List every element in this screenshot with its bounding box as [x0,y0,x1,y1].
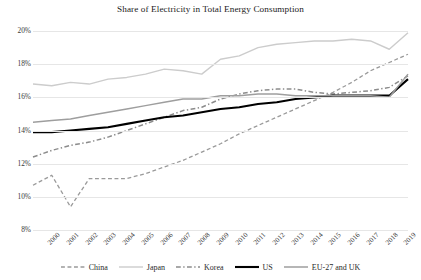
x-axis-tick-label: 2019 [402,231,418,247]
series-line-us [33,79,408,132]
legend-label-us: US [263,263,273,272]
legend-item-korea[interactable]: Korea [176,262,224,272]
x-axis-tick-label: 2000 [46,231,62,247]
x-axis-tick-label: 2014 [309,231,325,247]
x-axis-tick-label: 2015 [327,231,343,247]
x-axis-tick-label: 2016 [346,231,362,247]
legend-item-eu-27-and-uk[interactable]: EU-27 and UK [284,262,360,272]
x-axis-tick-label: 2017 [365,231,381,247]
legend-swatch-us [235,262,259,272]
series-line-japan [33,33,408,86]
x-axis-tick-label: 2001 [65,231,81,247]
legend-swatch-china [61,262,85,272]
legend-item-us[interactable]: US [235,262,273,272]
x-axis-tick-label: 2008 [196,231,212,247]
legend-swatch-japan [119,262,143,272]
gridline [33,97,408,98]
legend-swatch-eu-27-and-uk [284,262,308,272]
gridline [33,64,408,65]
x-axis-tick-label: 2005 [140,231,156,247]
y-axis-tick-label: 10% [3,193,31,200]
y-axis-tick-label: 16% [3,93,31,100]
y-axis-tick-label: 14% [3,127,31,134]
x-axis-tick-label: 2012 [271,231,287,247]
gridline [33,164,408,165]
chart-title: Share of Electricity in Total Energy Con… [0,4,421,14]
legend-label-korea: Korea [204,263,224,272]
legend-label-japan: Japan [147,263,165,272]
chart-legend: ChinaJapanKoreaUSEU-27 and UK [0,258,421,276]
x-axis-tick-label: 2002 [84,231,100,247]
legend-label-eu-27-and-uk: EU-27 and UK [312,263,360,272]
gridline [33,131,408,132]
x-axis-tick-label: 2013 [290,231,306,247]
x-axis-tick-label: 2009 [215,231,231,247]
plot-area [33,31,408,230]
x-axis-tick-label: 2004 [121,231,137,247]
legend-item-japan[interactable]: Japan [119,262,165,272]
x-axis-tick-label: 2011 [252,231,267,246]
legend-swatch-korea [176,262,200,272]
legend-label-china: China [89,263,108,272]
x-axis-tick-label: 2018 [384,231,400,247]
y-axis-tick-label: 20% [3,27,31,34]
x-axis-tick-label: 2003 [102,231,118,247]
y-axis-tick-label: 18% [3,60,31,67]
chart-container: Share of Electricity in Total Energy Con… [0,0,421,280]
gridline [33,197,408,198]
x-axis-tick-label: 2007 [177,231,193,247]
series-line-korea [33,76,408,157]
y-axis-tick-label: 8% [3,226,31,233]
y-axis: 8%10%12%14%16%18%20% [0,31,31,230]
x-axis-tick-label: 2010 [234,231,250,247]
gridline [33,31,408,32]
y-axis-tick-label: 12% [3,160,31,167]
x-axis-tick-label: 2006 [159,231,175,247]
legend-item-china[interactable]: China [61,262,108,272]
